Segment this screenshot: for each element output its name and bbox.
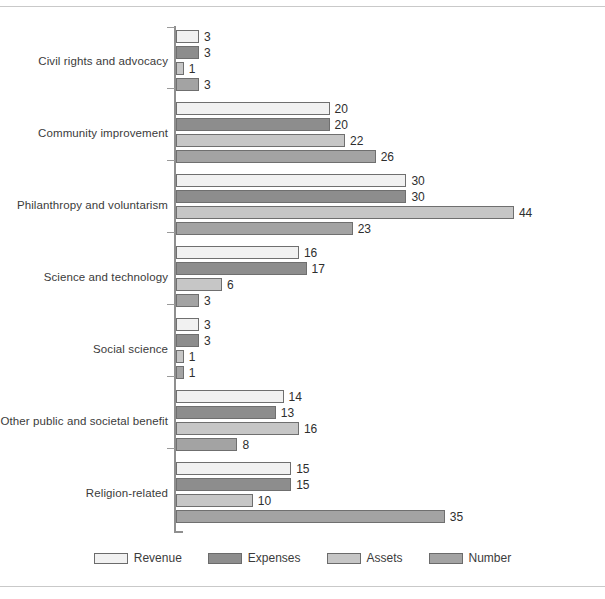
bar-assets	[176, 134, 345, 147]
bar-row: 16	[176, 246, 605, 259]
bar-group: Civil rights and advocacy3313	[0, 30, 605, 91]
bar-value-label: 44	[519, 206, 532, 220]
bar-row: 20	[176, 118, 605, 131]
bar-value-label: 30	[411, 190, 424, 204]
bar-row: 3	[176, 46, 605, 59]
bar-value-label: 13	[281, 406, 294, 420]
bar-assets	[176, 206, 514, 219]
bar-row: 20	[176, 102, 605, 115]
bar-group: Philanthropy and voluntarism30304423	[0, 174, 605, 235]
bar-expenses	[176, 478, 291, 491]
bar-row: 15	[176, 478, 605, 491]
bar-value-label: 1	[189, 350, 196, 364]
bar-value-label: 3	[204, 318, 211, 332]
axis-tick	[167, 27, 175, 28]
legend-item-assets[interactable]: Assets	[327, 551, 403, 565]
bar-group: Science and technology161763	[0, 246, 605, 307]
legend-swatch	[208, 553, 242, 564]
legend-label: Number	[469, 551, 512, 565]
bar-number	[176, 366, 184, 379]
legend-item-expenses[interactable]: Expenses	[208, 551, 301, 565]
bottom-divider	[0, 586, 605, 587]
bar-row: 3	[176, 318, 605, 331]
bar-value-label: 1	[189, 366, 196, 380]
axis-tick	[167, 160, 175, 161]
bar-value-label: 17	[312, 262, 325, 276]
bar-revenue	[176, 30, 199, 43]
bar-value-label: 3	[204, 334, 211, 348]
bar-value-label: 26	[381, 150, 394, 164]
bar-value-label: 3	[204, 78, 211, 92]
bar-number	[176, 510, 445, 523]
bar-revenue	[176, 102, 330, 115]
bar-row: 15	[176, 462, 605, 475]
bar-row: 30	[176, 174, 605, 187]
legend-label: Assets	[367, 551, 403, 565]
bar-group: Community improvement20202226	[0, 102, 605, 163]
bar-value-label: 20	[335, 118, 348, 132]
bar-row: 23	[176, 222, 605, 235]
bar-group: Social science3311	[0, 318, 605, 379]
bar-revenue	[176, 462, 291, 475]
bar-row: 26	[176, 150, 605, 163]
bar-revenue	[176, 390, 284, 403]
bar-number	[176, 78, 199, 91]
bar-row: 3	[176, 30, 605, 43]
bar-row: 13	[176, 406, 605, 419]
category-label: Community improvement	[38, 127, 168, 139]
bar-number	[176, 150, 376, 163]
bar-value-label: 16	[304, 246, 317, 260]
bar-value-label: 23	[358, 222, 371, 236]
legend-item-revenue[interactable]: Revenue	[94, 551, 182, 565]
bar-number	[176, 294, 199, 307]
category-label: Civil rights and advocacy	[38, 55, 168, 67]
bar-expenses	[176, 190, 406, 203]
bar-value-label: 14	[289, 390, 302, 404]
legend-swatch	[429, 553, 463, 564]
bar-row: 1	[176, 366, 605, 379]
bar-expenses	[176, 406, 276, 419]
chart-figure: Civil rights and advocacy3313Community i…	[0, 0, 605, 599]
plot-area: Civil rights and advocacy3313Community i…	[0, 0, 605, 545]
bar-row: 17	[176, 262, 605, 275]
bar-assets	[176, 62, 184, 75]
legend-label: Expenses	[248, 551, 301, 565]
bar-value-label: 22	[350, 134, 363, 148]
bar-row: 22	[176, 134, 605, 147]
bar-group: Other public and societal benefit1413168	[0, 390, 605, 451]
axis-tick	[167, 376, 175, 377]
bar-revenue	[176, 318, 199, 331]
bar-value-label: 15	[296, 462, 309, 476]
legend-swatch	[327, 553, 361, 564]
bar-value-label: 20	[335, 102, 348, 116]
bar-row: 8	[176, 438, 605, 451]
bar-value-label: 6	[227, 278, 234, 292]
bar-number	[176, 438, 237, 451]
bar-row: 3	[176, 294, 605, 307]
bar-row: 10	[176, 494, 605, 507]
bar-value-label: 30	[411, 174, 424, 188]
legend-swatch	[94, 553, 128, 564]
category-label: Science and technology	[44, 271, 168, 283]
bar-row: 3	[176, 334, 605, 347]
bar-value-label: 1	[189, 62, 196, 76]
bar-assets	[176, 494, 253, 507]
bar-value-label: 8	[242, 438, 249, 452]
bar-expenses	[176, 118, 330, 131]
bar-number	[176, 222, 353, 235]
bar-value-label: 10	[258, 494, 271, 508]
bar-value-label: 3	[204, 294, 211, 308]
bar-value-label: 16	[304, 422, 317, 436]
bar-group: Religion-related15151035	[0, 462, 605, 523]
legend-item-number[interactable]: Number	[429, 551, 512, 565]
bar-row: 1	[176, 350, 605, 363]
category-label: Other public and societal benefit	[0, 415, 168, 427]
bar-value-label: 35	[450, 510, 463, 524]
axis-tick	[167, 304, 175, 305]
bar-row: 30	[176, 190, 605, 203]
axis-foot-tick	[174, 531, 183, 533]
bar-expenses	[176, 334, 199, 347]
bar-row: 14	[176, 390, 605, 403]
bar-assets	[176, 350, 184, 363]
bar-row: 16	[176, 422, 605, 435]
